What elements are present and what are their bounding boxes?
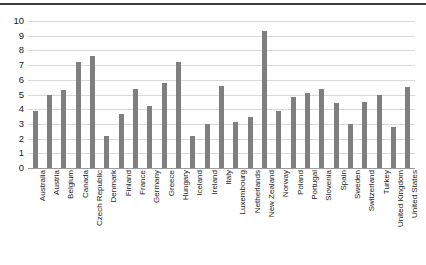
y-tick-label-10: 10: [13, 16, 24, 26]
y-tick-label-4: 4: [19, 104, 24, 114]
bar: [391, 127, 396, 168]
x-axis-label: Iceland: [196, 170, 204, 196]
y-tick-label-6: 6: [19, 75, 24, 85]
bar: [262, 31, 267, 168]
x-axis-label: Australia: [39, 170, 47, 201]
x-axis-label: Sweden: [354, 170, 362, 199]
bar: [291, 97, 296, 168]
bar: [47, 95, 52, 169]
x-axis-label: Netherlands: [254, 170, 262, 213]
x-axis-label-text: Greece: [168, 170, 176, 196]
x-axis-label: Denmark: [110, 170, 118, 202]
x-axis-label-text: Ireland: [211, 170, 219, 194]
bar: [319, 89, 324, 168]
x-axis-label-text: Australia: [39, 170, 47, 201]
x-axis-label-text: Spain: [340, 170, 348, 190]
bar: [248, 117, 253, 168]
x-axis-label: New Zealand: [268, 170, 276, 217]
x-axis-label-text: Finland: [125, 170, 133, 196]
x-axis-label: Norway: [282, 170, 290, 197]
bar: [61, 90, 66, 168]
x-axis-category-labels: AustraliaAustriaBelgiumCanadaCzech Repub…: [28, 170, 415, 265]
x-axis-label-text: Belgium: [67, 170, 75, 199]
x-axis-label: Luxembourg: [239, 170, 247, 214]
bar: [348, 124, 353, 168]
x-axis-label-text: Canada: [82, 170, 90, 198]
x-axis-label: Ireland: [211, 170, 219, 194]
bar: [233, 122, 238, 168]
x-axis-label: Belgium: [67, 170, 75, 199]
x-axis-label-text: France: [139, 170, 147, 195]
bar: [176, 62, 181, 168]
x-axis-label-text: Luxembourg: [239, 170, 247, 214]
bar: [377, 95, 382, 169]
bar: [276, 111, 281, 168]
y-tick-label-7: 7: [19, 60, 24, 70]
x-axis-label: United Kingdom: [397, 170, 405, 227]
x-axis-label: United States: [411, 170, 419, 218]
x-axis-label-text: Italy: [225, 170, 233, 185]
bar-chart: 012345678910 AustraliaAustriaBelgiumCana…: [0, 0, 426, 265]
x-axis-label-text: United States: [411, 170, 419, 218]
bar: [334, 103, 339, 168]
x-axis-label: Greece: [168, 170, 176, 196]
x-axis-label-text: Netherlands: [254, 170, 262, 213]
bar: [119, 114, 124, 168]
bar: [362, 102, 367, 168]
x-axis-label: Czech Republic: [96, 170, 104, 226]
x-axis-label: Poland: [297, 170, 305, 195]
x-axis-label: Switzerland: [368, 170, 376, 211]
y-tick-label-8: 8: [19, 46, 24, 56]
bar: [305, 93, 310, 168]
bar: [405, 87, 410, 168]
x-axis-label: France: [139, 170, 147, 195]
bar: [104, 136, 109, 168]
x-axis-label-text: Poland: [297, 170, 305, 195]
gridline-0: [28, 168, 415, 169]
x-axis-label-text: United Kingdom: [397, 170, 405, 227]
x-axis-label: Portugal: [311, 170, 319, 200]
x-axis-label-text: Norway: [282, 170, 290, 197]
x-axis-label-text: Sweden: [354, 170, 362, 199]
bar: [219, 86, 224, 168]
x-axis-label: Turkey: [383, 170, 391, 194]
x-axis-label: Canada: [82, 170, 90, 198]
y-tick-label-2: 2: [19, 134, 24, 144]
y-axis-tick-labels: 012345678910: [0, 21, 28, 168]
y-tick-label-5: 5: [19, 90, 24, 100]
y-tick-label-0: 0: [19, 163, 24, 173]
bar: [90, 56, 95, 168]
bar: [190, 136, 195, 168]
x-axis-label-text: Slovenia: [325, 170, 333, 201]
x-axis-label: Hungary: [182, 170, 190, 200]
bar: [76, 62, 81, 168]
x-axis-label-text: New Zealand: [268, 170, 276, 217]
x-axis-label-text: Austria: [53, 170, 61, 195]
bar: [33, 111, 38, 168]
y-tick-label-3: 3: [19, 119, 24, 129]
x-axis-label-text: Switzerland: [368, 170, 376, 211]
x-axis-label: Italy: [225, 170, 233, 185]
bar-series: [28, 21, 415, 168]
x-axis-label-text: Denmark: [110, 170, 118, 202]
bar: [162, 83, 167, 168]
x-axis-label: Spain: [340, 170, 348, 190]
x-axis-label: Finland: [125, 170, 133, 196]
x-axis-label-text: Hungary: [182, 170, 190, 200]
bar: [133, 89, 138, 168]
x-axis-label-text: Germany: [153, 170, 161, 203]
x-axis-label-text: Turkey: [383, 170, 391, 194]
x-axis-label-text: Iceland: [196, 170, 204, 196]
x-axis-label: Slovenia: [325, 170, 333, 201]
x-axis-label-text: Portugal: [311, 170, 319, 200]
y-tick-label-9: 9: [19, 31, 24, 41]
x-axis-label: Germany: [153, 170, 161, 203]
x-axis-label-text: Czech Republic: [96, 170, 104, 226]
bar: [205, 124, 210, 168]
x-axis-label: Austria: [53, 170, 61, 195]
y-tick-label-1: 1: [19, 149, 24, 159]
bar: [147, 106, 152, 168]
